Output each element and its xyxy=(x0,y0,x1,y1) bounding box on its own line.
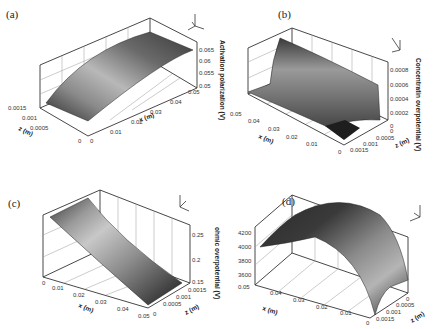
v-axis-label: Concentratin overpotential (V) xyxy=(414,58,422,151)
svg-text:4000: 4000 xyxy=(238,244,252,250)
svg-text:0.05: 0.05 xyxy=(138,313,150,319)
svg-text:0.05: 0.05 xyxy=(238,284,250,290)
svg-text:0.055: 0.055 xyxy=(199,70,215,76)
svg-text:0.25: 0.25 xyxy=(192,232,204,238)
svg-text:0.0005: 0.0005 xyxy=(376,135,395,141)
svg-text:0.02: 0.02 xyxy=(286,134,298,140)
surface xyxy=(260,203,408,316)
svg-text:0.03: 0.03 xyxy=(95,299,107,305)
svg-text:0.01: 0.01 xyxy=(110,129,122,135)
svg-text:0.04: 0.04 xyxy=(170,99,182,105)
svg-text:0.04: 0.04 xyxy=(117,306,129,312)
svg-text:0.0015: 0.0015 xyxy=(376,316,395,322)
svg-text:0: 0 xyxy=(90,138,94,144)
orientation-axes-icon xyxy=(410,205,420,221)
svg-text:0.04: 0.04 xyxy=(248,118,260,124)
svg-text:0.001: 0.001 xyxy=(176,294,192,300)
svg-text:0.0005: 0.0005 xyxy=(163,301,182,307)
z-axis-label: z (m) xyxy=(393,136,410,150)
x-axis-label: x (m) xyxy=(257,132,274,145)
svg-text:0.05: 0.05 xyxy=(199,83,211,89)
svg-text:0.04: 0.04 xyxy=(270,290,282,296)
surface xyxy=(46,32,193,121)
svg-text:0: 0 xyxy=(366,320,370,326)
svg-text:0: 0 xyxy=(153,311,157,317)
svg-text:0.03: 0.03 xyxy=(293,297,305,303)
svg-text:0.01: 0.01 xyxy=(340,310,352,316)
svg-text:0.0008: 0.0008 xyxy=(390,67,409,73)
svg-text:0.01: 0.01 xyxy=(306,141,318,147)
z-axis-label: z (m) xyxy=(183,303,200,317)
svg-text:0.0015: 0.0015 xyxy=(8,105,27,111)
x-axis-label: x (m) xyxy=(77,301,94,314)
z-axis-ticks: 0 0.0005 0.001 0.0015 xyxy=(350,128,395,153)
svg-text:3600: 3600 xyxy=(238,272,252,278)
svg-text:0: 0 xyxy=(390,128,394,134)
svg-text:0: 0 xyxy=(78,138,82,144)
svg-text:0: 0 xyxy=(338,149,342,155)
svg-text:0.0004: 0.0004 xyxy=(390,96,409,102)
orientation-axes-icon xyxy=(392,38,400,52)
svg-text:0.0015: 0.0015 xyxy=(188,287,207,293)
panel-c: (c) 0.25 0.2 0.15 0 0.01 xyxy=(0,165,220,329)
svg-text:4200: 4200 xyxy=(238,230,252,236)
svg-text:0: 0 xyxy=(42,280,46,286)
svg-text:0.01: 0.01 xyxy=(52,285,64,291)
svg-text:0.0002: 0.0002 xyxy=(390,110,409,116)
v-axis-ticks: 0.065 0.06 0.055 0.05 xyxy=(199,47,215,89)
orientation-axes-icon xyxy=(188,14,204,30)
svg-text:0.02: 0.02 xyxy=(73,292,85,298)
svg-text:3800: 3800 xyxy=(238,258,252,264)
v-axis-ticks: 0.25 0.2 0.15 xyxy=(192,232,204,285)
v-axis-ticks: 4200 4000 3800 3600 xyxy=(238,230,252,278)
svg-text:0.05: 0.05 xyxy=(188,89,200,95)
panel-label: (b) xyxy=(278,8,291,21)
panel-label: (a) xyxy=(6,8,19,21)
v-axis-ticks: 0.0008 0.0006 0.0004 0.0002 0 xyxy=(390,67,409,129)
z-axis-label: z (m) xyxy=(409,310,426,325)
panel-d: (d) 4200 4000 3800 3600 xyxy=(220,165,435,329)
svg-text:0.0015: 0.0015 xyxy=(350,147,369,153)
svg-text:0.03: 0.03 xyxy=(268,126,280,132)
svg-text:0.001: 0.001 xyxy=(386,309,402,315)
svg-text:0.0006: 0.0006 xyxy=(390,82,409,88)
svg-text:0.2: 0.2 xyxy=(192,257,201,263)
orientation-axes-icon xyxy=(180,195,189,211)
svg-text:0.001: 0.001 xyxy=(22,115,38,121)
svg-text:0.02: 0.02 xyxy=(316,304,328,310)
panel-a: (a) 0.065 0.06 0.055 0.05 xyxy=(0,0,220,165)
x-axis-label: x (m) xyxy=(261,304,278,316)
svg-text:0.06: 0.06 xyxy=(199,58,211,64)
svg-text:0.0005: 0.0005 xyxy=(396,302,415,308)
panel-label: (c) xyxy=(8,197,21,210)
x-axis-ticks: 0.05 0.04 0.03 0.02 0.01 0 xyxy=(238,284,370,326)
svg-text:0.065: 0.065 xyxy=(199,47,215,53)
panel-b: (b) 0.0008 0.0006 0.0004 0.0002 xyxy=(220,0,435,165)
svg-text:0.05: 0.05 xyxy=(230,111,242,117)
svg-text:0.15: 0.15 xyxy=(192,279,204,285)
surface xyxy=(248,38,380,128)
